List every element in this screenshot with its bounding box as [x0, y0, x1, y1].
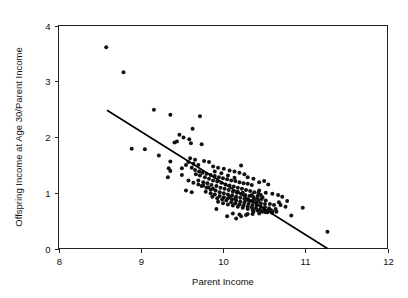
data-point	[196, 178, 200, 182]
data-point	[220, 197, 224, 201]
data-point	[168, 169, 172, 173]
data-point	[130, 147, 134, 151]
data-point	[244, 188, 248, 192]
x-tick-label: 9	[139, 256, 144, 267]
x-axis-title: Parent Income	[192, 276, 254, 287]
data-point	[221, 201, 225, 205]
data-point	[266, 182, 270, 186]
data-point	[233, 170, 237, 174]
data-point	[168, 113, 172, 117]
data-point	[213, 170, 217, 174]
x-tick-label: 11	[301, 256, 311, 267]
data-point	[257, 189, 261, 193]
data-point	[240, 187, 244, 191]
data-point	[203, 175, 207, 179]
data-point	[193, 168, 197, 172]
data-point	[198, 173, 202, 177]
y-tick-label: 3	[45, 76, 50, 87]
data-point	[237, 180, 241, 184]
data-point	[242, 181, 246, 185]
data-point	[218, 190, 222, 194]
data-point	[301, 206, 305, 210]
data-point	[264, 199, 268, 203]
y-tick-label: 1	[45, 188, 50, 199]
data-point	[224, 199, 228, 203]
data-point	[214, 207, 218, 211]
data-point	[104, 45, 108, 49]
data-point	[280, 195, 284, 199]
plot-frame	[59, 26, 388, 249]
data-point	[177, 133, 181, 137]
data-point	[191, 127, 195, 131]
data-point	[259, 193, 263, 197]
data-point	[215, 196, 219, 200]
y-tick-label: 2	[45, 132, 50, 143]
data-point	[222, 191, 226, 195]
data-point	[225, 177, 229, 181]
scatter-points-layer	[104, 45, 329, 234]
data-point	[190, 190, 194, 194]
data-point	[226, 202, 230, 206]
y-tick-label: 0	[45, 244, 50, 255]
data-point	[276, 193, 280, 197]
data-point	[246, 175, 250, 179]
data-point	[284, 205, 288, 209]
data-point	[272, 203, 276, 207]
data-point	[216, 166, 220, 170]
data-point	[219, 186, 223, 190]
data-point	[196, 182, 200, 186]
data-point	[231, 204, 235, 208]
data-point	[250, 183, 254, 187]
data-point	[172, 141, 176, 145]
data-point	[239, 163, 243, 167]
data-point	[225, 214, 229, 218]
x-tick-label: 10	[218, 256, 229, 267]
data-point	[223, 187, 227, 191]
data-point	[180, 173, 184, 177]
data-point	[246, 182, 250, 186]
data-point	[214, 184, 218, 188]
data-point	[200, 142, 204, 146]
data-point	[246, 207, 250, 211]
data-point	[202, 159, 206, 163]
data-point	[285, 199, 289, 203]
data-point	[221, 176, 225, 180]
data-point	[219, 171, 223, 175]
data-point	[239, 214, 243, 218]
data-point	[194, 172, 198, 176]
data-point	[268, 202, 272, 206]
data-point	[204, 190, 208, 194]
data-point	[248, 189, 252, 193]
data-point	[242, 172, 246, 176]
data-point	[152, 108, 156, 112]
data-point	[222, 167, 226, 171]
data-point	[289, 214, 293, 218]
data-point	[206, 185, 210, 189]
data-point	[216, 200, 220, 204]
data-point	[258, 209, 262, 213]
data-point	[207, 177, 211, 181]
data-point	[228, 195, 232, 199]
data-point	[198, 114, 202, 118]
data-point	[207, 160, 211, 164]
data-point	[241, 206, 245, 210]
data-point	[209, 183, 213, 187]
x-axis-ticks	[60, 249, 389, 253]
data-point	[166, 175, 170, 179]
y-tick-label: 4	[45, 21, 50, 32]
data-point	[257, 180, 261, 184]
data-point	[274, 207, 278, 211]
data-point	[189, 141, 193, 145]
data-point	[210, 195, 214, 199]
data-point	[236, 186, 240, 190]
data-point	[277, 200, 281, 204]
data-point	[270, 192, 274, 196]
data-point	[251, 210, 255, 214]
data-point	[238, 196, 242, 200]
data-point	[233, 179, 237, 183]
x-tick-label: 8	[57, 256, 62, 267]
data-point	[188, 156, 192, 160]
data-point	[184, 189, 188, 193]
data-point	[227, 188, 231, 192]
data-point	[264, 191, 268, 195]
